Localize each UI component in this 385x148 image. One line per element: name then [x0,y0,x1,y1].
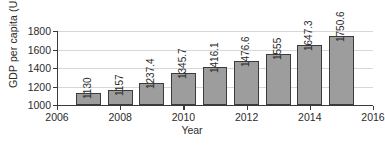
y-axis-title: GDP per capita (US$) [7,0,21,88]
x-tick-mark [373,106,374,110]
bar-value-label: 1157 [115,75,125,97]
x-tick-label: 2008 [109,112,132,123]
gridline [58,31,373,32]
x-tick-label: 2010 [172,112,195,123]
x-tick-mark [310,106,311,110]
bar [297,45,322,105]
bar-value-label: 1647.3 [304,21,314,52]
x-tick-label: 2016 [361,112,384,123]
y-tick-mark [53,31,57,32]
bar-value-label: 1237.4 [146,58,156,89]
y-tick-label: 1800 [28,26,51,37]
x-tick-mark [57,106,58,110]
x-axis-title: Year [0,124,384,136]
y-tick-label: 1400 [28,63,51,74]
y-tick-label: 1200 [28,82,51,93]
x-tick-label: 2012 [235,112,258,123]
bar-value-label: 1476.6 [241,36,251,67]
y-tick-mark [53,50,57,51]
bar-value-label: 1345.7 [178,48,188,79]
y-tick-mark [53,87,57,88]
bar-value-label: 1555 [273,37,283,59]
y-tick-mark [53,68,57,69]
y-tick-label: 1000 [28,100,51,111]
bar [266,54,291,105]
x-tick-label: 2006 [45,112,68,123]
bar-value-label: 1130 [83,77,93,99]
bar-value-label: 1750.6 [336,11,346,42]
y-tick-label: 1600 [28,45,51,56]
bar [234,61,259,105]
x-tick-mark [247,106,248,110]
plot-area: 10001200140016001800 2006200820102012201… [57,31,373,105]
x-axis-line [57,105,373,106]
x-tick-mark [183,106,184,110]
bar [329,36,354,105]
x-tick-mark [120,106,121,110]
x-tick-label: 2014 [298,112,321,123]
bar-value-label: 1416.1 [210,42,220,73]
